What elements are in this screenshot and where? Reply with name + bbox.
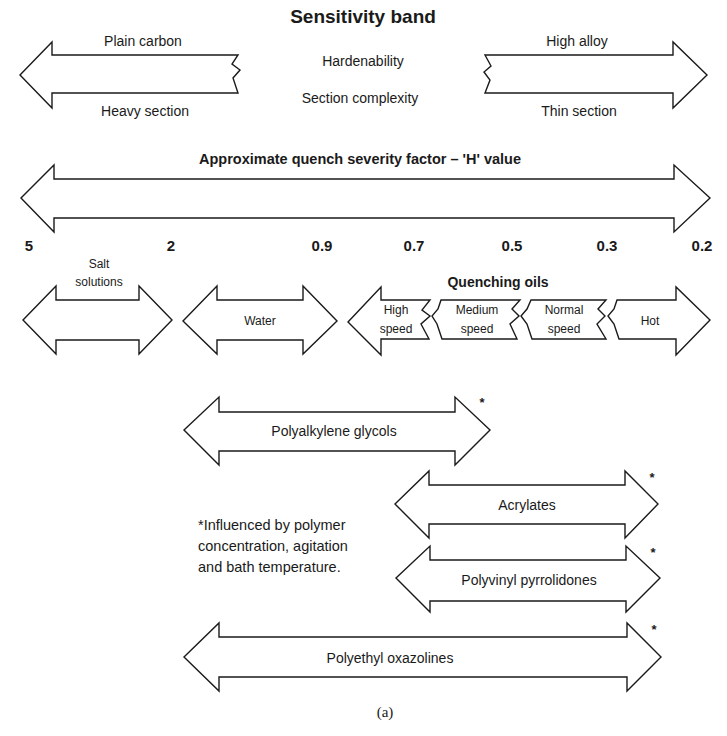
footnote-line3: and bath temperature. [198, 559, 341, 575]
oil-high-speed-line2: speed [380, 322, 413, 336]
heavy-section-label: Heavy section [101, 103, 189, 119]
footnote-line1: *Influenced by polymer [198, 517, 346, 533]
h-value-scale-arrow [21, 165, 710, 232]
footnote-line2: concentration, agitation [198, 538, 348, 554]
polyethyl-oxazolines-asterisk: * [651, 622, 657, 637]
acrylates-asterisk: * [649, 470, 655, 485]
acrylates-label: Acrylates [498, 497, 556, 513]
oil-high-speed-arrow [348, 287, 430, 355]
h-tick-0-9: 0.9 [312, 237, 333, 254]
polyethyl-oxazolines-label: Polyethyl oxazolines [327, 650, 454, 666]
polyalkylene-glycols-label: Polyalkylene glycols [271, 423, 396, 439]
section-complexity-label: Section complexity [302, 90, 419, 106]
plain-carbon-arrow [20, 42, 240, 108]
polyvinyl-pyrrolidones-label: Polyvinyl pyrrolidones [461, 572, 596, 588]
salt-solutions-label-line1: Salt [89, 257, 110, 271]
thin-section-label: Thin section [541, 103, 616, 119]
oil-high-speed-line1: High [384, 303, 409, 317]
hardenability-label: Hardenability [322, 53, 404, 69]
sensitivity-band-title: Sensitivity band [290, 6, 436, 27]
polyalkylene-glycols-asterisk: * [479, 395, 485, 410]
h-tick-0-2: 0.2 [692, 237, 713, 254]
h-value-scale-title: Approximate quench severity factor – 'H'… [199, 151, 521, 167]
quenching-oils-title: Quenching oils [447, 274, 548, 290]
h-tick-0-7: 0.7 [404, 237, 425, 254]
h-tick-0-5: 0.5 [502, 237, 523, 254]
oil-medium-speed-line2: speed [461, 322, 494, 336]
oil-hot-label: Hot [641, 314, 660, 328]
water-label: Water [244, 314, 276, 328]
high-alloy-label: High alloy [546, 33, 607, 49]
salt-solutions-label-line2: solutions [75, 275, 122, 289]
h-tick-0-3: 0.3 [597, 237, 618, 254]
polyvinyl-pyrrolidones-asterisk: * [650, 545, 656, 560]
high-alloy-arrow [484, 42, 707, 108]
oil-normal-speed-line1: Normal [545, 303, 584, 317]
h-tick-5: 5 [25, 237, 33, 254]
h-tick-2: 2 [167, 237, 175, 254]
oil-normal-speed-line2: speed [548, 322, 581, 336]
plain-carbon-label: Plain carbon [104, 33, 182, 49]
figure-caption: (a) [377, 704, 394, 721]
oil-medium-speed-line1: Medium [456, 303, 499, 317]
salt-solutions-arrow [23, 286, 172, 354]
quench-severity-diagram: Sensitivity band Plain carbon Heavy sect… [0, 0, 727, 736]
